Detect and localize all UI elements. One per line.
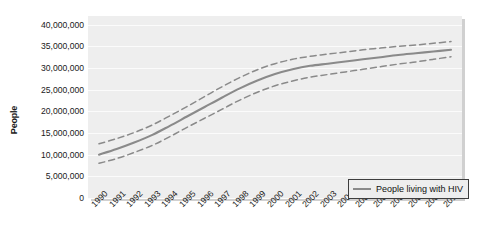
legend-label: People living with HIV xyxy=(376,184,463,194)
y-tick-label: 15,000,000 xyxy=(18,128,84,138)
y-tick-label: 5,000,000 xyxy=(18,171,84,181)
y-tick-label: 35,000,000 xyxy=(18,41,84,51)
y-tick-label: 25,000,000 xyxy=(18,85,84,95)
y-tick-label: 40,000,000 xyxy=(18,20,84,30)
y-tick-label: 10,000,000 xyxy=(18,150,84,160)
chart-page: People 05,000,00010,000,00015,000,00020,… xyxy=(0,0,494,249)
chart-legend: People living with HIV xyxy=(348,179,469,199)
y-tick-label: 30,000,000 xyxy=(18,63,84,73)
series-line xyxy=(99,50,451,155)
series-line xyxy=(99,57,451,164)
legend-line-swatch xyxy=(353,188,371,190)
y-tick-label: 20,000,000 xyxy=(18,106,84,116)
plot-area xyxy=(88,16,462,198)
chart-lines xyxy=(88,16,462,198)
x-axis-tick-labels: 1990199119921993199419951996199719981999… xyxy=(0,200,494,249)
series-line xyxy=(99,42,451,144)
